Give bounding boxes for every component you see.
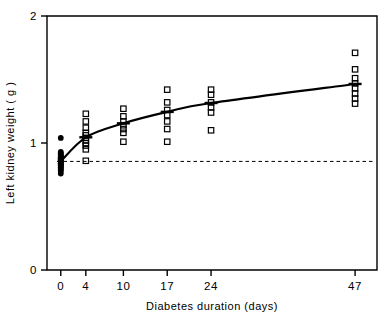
data-point-open-square <box>208 128 213 133</box>
x-axis-tick-label: 17 <box>160 280 174 292</box>
data-point-open-square <box>83 147 88 152</box>
series-group <box>165 87 170 144</box>
series-group <box>58 135 64 176</box>
data-point-open-square <box>165 87 170 92</box>
x-axis-tick-label: 47 <box>348 280 362 292</box>
data-point-open-square <box>121 139 126 144</box>
data-point-open-square <box>165 126 170 131</box>
data-point-open-square <box>352 67 357 72</box>
x-axis-tick-label: 0 <box>57 280 64 292</box>
data-point-open-square <box>83 111 88 116</box>
data-point-open-square <box>121 126 126 131</box>
data-point-open-square <box>165 139 170 144</box>
x-axis-tick-label: 24 <box>204 280 218 292</box>
scatter-plot: 0120410172447Diabetes duration (days)Lef… <box>0 0 388 323</box>
y-axis-tick-label: 2 <box>30 10 37 22</box>
series-group <box>121 106 126 144</box>
y-axis-title: Left kidney weight ( g ) <box>4 82 16 205</box>
data-point-open-square <box>121 130 126 135</box>
data-point-filled-circle <box>58 171 64 177</box>
x-axis-title: Diabetes duration (days) <box>146 300 278 312</box>
data-point-open-square <box>83 158 88 163</box>
y-axis-tick-label: 1 <box>30 137 37 149</box>
series-group <box>208 87 213 133</box>
plot-frame <box>47 16 377 270</box>
x-axis-tick-label: 10 <box>116 280 130 292</box>
y-axis-tick-label: 0 <box>30 264 37 276</box>
data-point-filled-circle <box>58 135 64 141</box>
data-point-open-square <box>165 100 170 105</box>
data-point-open-square <box>83 119 88 124</box>
figure-container: 0120410172447Diabetes duration (days)Lef… <box>0 0 388 323</box>
x-axis-tick-label: 4 <box>82 280 89 292</box>
series-group <box>352 50 357 106</box>
data-point-open-square <box>121 106 126 111</box>
data-point-open-square <box>352 50 357 55</box>
data-point-open-square <box>165 119 170 124</box>
